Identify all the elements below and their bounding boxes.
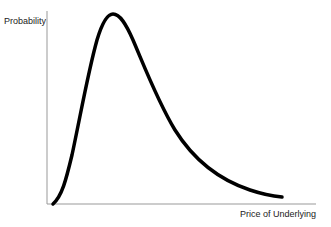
chart-plot-area [0, 0, 331, 227]
distribution-curve [53, 14, 282, 204]
